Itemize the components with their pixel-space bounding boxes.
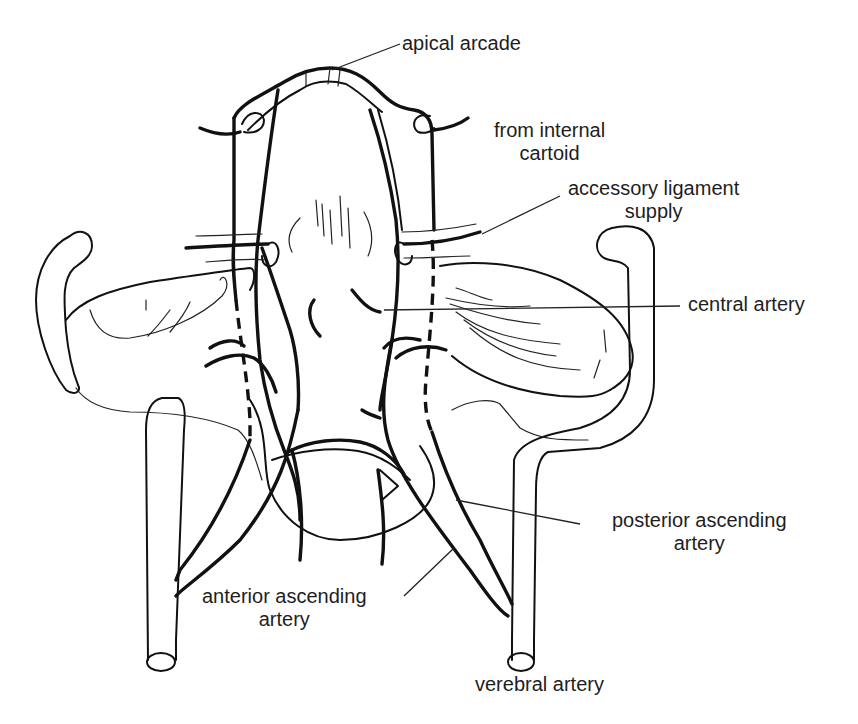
central-artery-text: central artery — [688, 293, 805, 316]
label-from-internal-cartoid: from internal cartoid — [494, 119, 605, 165]
axis-body — [250, 400, 434, 540]
posterior-ascending-artery-line1: posterior ascending — [612, 509, 787, 532]
verebral-artery-text: verebral artery — [475, 673, 604, 696]
dens — [176, 68, 512, 616]
anterior-ascending-artery-line1: anterior ascending — [202, 585, 367, 608]
right-lateral-mass — [440, 263, 633, 440]
from-internal-cartoid-line1: from internal — [494, 119, 605, 142]
accessory-ligament-supply-line1: accessory ligament — [568, 177, 739, 200]
anterior-ascending-artery-line2: artery — [202, 608, 367, 631]
label-verebral-artery: verebral artery — [475, 673, 604, 696]
label-accessory-ligament-supply: accessory ligament supply — [568, 177, 739, 223]
dens-blood-supply-diagram — [0, 0, 858, 724]
from-internal-cartoid-line2: cartoid — [494, 142, 605, 165]
posterior-ascending-artery-line2: artery — [612, 532, 787, 555]
label-apical-arcade: apical arcade — [402, 32, 521, 55]
label-central-artery: central artery — [688, 293, 805, 316]
label-anterior-ascending-artery: anterior ascending artery — [202, 585, 367, 631]
right-vertebral-artery — [508, 226, 654, 671]
left-vertebral-artery — [36, 232, 185, 671]
label-posterior-ascending-artery: posterior ascending artery — [612, 509, 787, 555]
apical-arcade-text: apical arcade — [402, 32, 521, 55]
left-lateral-mass — [66, 268, 262, 480]
accessory-ligament-supply-line2: supply — [568, 200, 739, 223]
